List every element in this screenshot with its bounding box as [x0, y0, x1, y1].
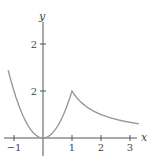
x-tick-label: 2 [98, 142, 104, 153]
y-ticks: 22 [31, 39, 46, 97]
x-tick-label: 3 [127, 142, 133, 153]
y-tick-label: 2 [31, 86, 37, 97]
x-tick-label: 1 [69, 142, 75, 153]
function-plot: −1123 22 x y [0, 0, 152, 166]
axes [4, 22, 137, 156]
x-tick-label: −1 [7, 142, 22, 153]
y-axis-label: y [38, 10, 46, 23]
function-curve [8, 70, 139, 138]
x-axis-label: x [141, 131, 148, 144]
y-tick-label: 2 [31, 39, 37, 50]
